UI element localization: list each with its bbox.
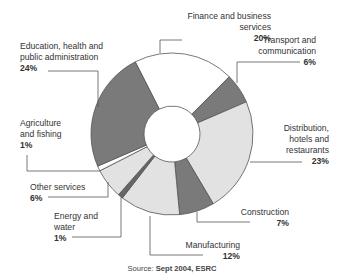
label-other-line1: Other services	[30, 182, 85, 192]
label-manufacturing-pct: 12%	[170, 251, 240, 262]
label-education-line2: public administration	[20, 52, 98, 62]
label-construction-pct: 7%	[225, 218, 289, 229]
label-agriculture: Agriculture and fishing 1%	[20, 118, 90, 151]
source-prefix: Source:	[127, 264, 155, 273]
label-agriculture-line1: Agriculture	[20, 118, 61, 128]
label-manufacturing: Manufacturing 12%	[170, 240, 240, 262]
label-education: Education, health and public administrat…	[20, 41, 120, 74]
donut-slices	[91, 53, 253, 215]
label-distribution-line2: hotels and	[289, 134, 329, 144]
label-manufacturing-line1: Manufacturing	[186, 240, 240, 250]
source-note: Source: Sept 2004, ESRC	[0, 264, 344, 273]
label-distribution: Distribution, hotels and restaurants 23%	[250, 123, 329, 167]
label-finance-line1: Finance and business	[187, 11, 271, 21]
label-agriculture-pct: 1%	[20, 140, 90, 151]
label-finance-line2: services	[239, 22, 271, 32]
label-energy-line1: Energy and	[54, 211, 98, 221]
label-construction-line1: Construction	[241, 207, 289, 217]
label-transport-line2: communication	[258, 46, 316, 56]
label-distribution-line1: Distribution,	[284, 123, 329, 133]
label-distribution-line3: restaurants	[286, 145, 329, 155]
source-value: Sept 2004, ESRC	[156, 264, 217, 273]
label-energy-pct: 1%	[54, 233, 114, 244]
label-distribution-pct: 23%	[250, 156, 329, 167]
label-other: Other services 6%	[30, 182, 110, 204]
label-education-line1: Education, health and	[20, 41, 103, 51]
label-energy: Energy and water 1%	[54, 211, 114, 244]
label-transport: Transport and communication 6%	[230, 35, 316, 68]
label-agriculture-line2: and fishing	[20, 129, 62, 139]
label-transport-pct: 6%	[230, 57, 316, 68]
label-other-pct: 6%	[30, 193, 110, 204]
label-energy-line2: water	[54, 222, 75, 232]
label-education-pct: 24%	[20, 63, 120, 74]
label-construction: Construction 7%	[225, 207, 289, 229]
label-transport-line1: Transport and	[263, 35, 316, 45]
